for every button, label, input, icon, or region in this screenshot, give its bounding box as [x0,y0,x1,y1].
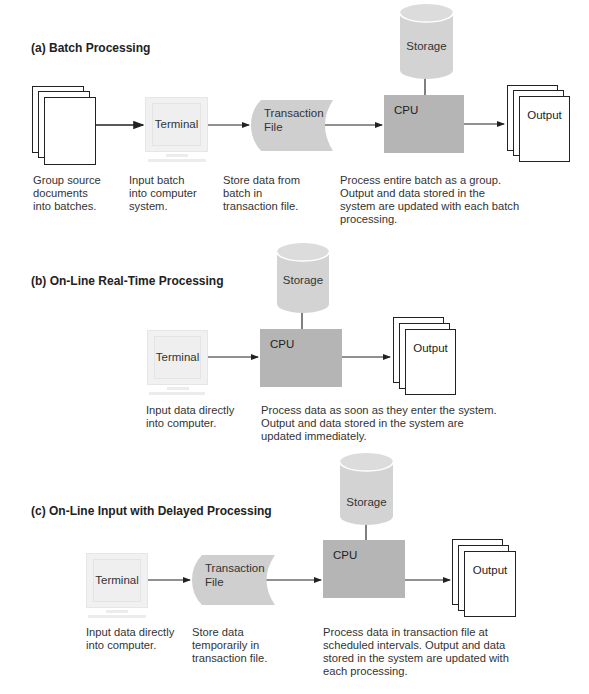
terminal-label: Terminal [87,574,147,586]
storage-cylinder-icon [340,453,393,525]
section-title: (b) On-Line Real-Time Processing [31,274,223,288]
terminal-keyboard [88,615,146,618]
output-label: Output [465,564,515,576]
caption-transaction: Store data temporarily in transaction fi… [192,626,267,665]
caption-cpu: Process data in transaction file at sche… [323,626,509,678]
output-label: Output [406,342,455,354]
terminal-icon: Terminal [145,97,208,152]
cpu-box: CPU [384,95,464,153]
terminal-icon: Terminal [147,330,208,385]
cpu-label: CPU [270,338,294,350]
transaction-file-label: Transaction File [264,106,324,134]
terminal-keyboard [148,159,206,162]
terminal-stand [106,610,128,613]
terminal-stand [167,387,189,390]
caption-terminal: Input data directly into computer. [86,626,174,652]
cpu-label: CPU [333,549,357,561]
caption-source-docs: Group source documents into batches. [33,174,101,213]
transaction-file-label: Transaction File [205,561,265,589]
terminal-label: Terminal [146,118,207,130]
caption-transaction: Store data from batch in transaction fil… [223,174,300,213]
storage-label: Storage [277,274,329,286]
cpu-label: CPU [394,104,418,116]
output-label: Output [520,109,569,121]
caption-terminal: Input batch into computer system. [129,174,197,213]
terminal-keyboard [149,392,205,395]
storage-label: Storage [400,40,453,52]
storage-label: Storage [340,496,393,508]
caption-cpu: Process entire batch as a group. Output … [340,174,519,226]
section-title: (c) On-Line Input with Delayed Processin… [31,504,272,518]
cpu-box: CPU [260,329,342,387]
caption-cpu: Process data as soon as they enter the s… [261,404,497,443]
cpu-box: CPU [323,540,405,598]
terminal-stand [166,154,188,157]
terminal-icon: Terminal [86,553,148,608]
section-title: (a) Batch Processing [31,41,150,55]
caption-terminal: Input data directly into computer. [146,404,234,430]
terminal-label: Terminal [148,351,207,363]
